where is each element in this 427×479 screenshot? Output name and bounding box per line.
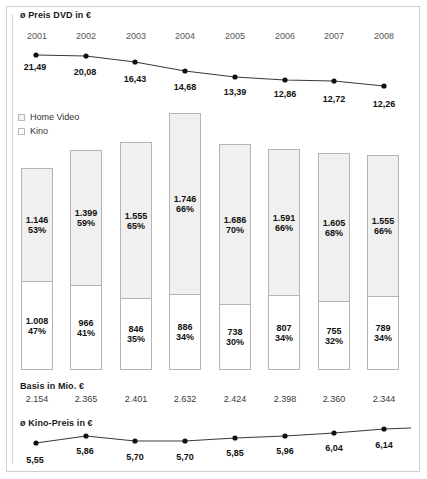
kino-price-label-2007: 6,04 — [312, 443, 356, 453]
year-label-2006: 2006 — [265, 31, 305, 41]
bar-percent-home-video-2001: 53% — [28, 225, 46, 235]
basis-value-2006: 2.398 — [263, 394, 307, 404]
dvd-price-label-2006: 12,86 — [263, 89, 307, 99]
bar-segment-home-video-2006[interactable]: 1.591 66% — [268, 149, 300, 296]
kino-price-label-2003: 5,70 — [113, 452, 157, 462]
bar-percent-home-video-2003: 65% — [127, 221, 145, 231]
bar-segment-home-video-2008[interactable]: 1.555 66% — [367, 155, 399, 297]
bar-percent-kino-2005: 30% — [226, 337, 244, 347]
bar-percent-home-video-2002: 59% — [77, 218, 95, 228]
bar-percent-kino-2008: 34% — [374, 333, 392, 343]
legend-item-kino[interactable]: Kino — [18, 126, 48, 136]
bar-segment-home-video-2003[interactable]: 1.555 65% — [120, 142, 152, 299]
bar-segment-kino-2004[interactable]: 886 34% — [169, 295, 201, 370]
dvd-price-label-2001: 21,49 — [13, 62, 57, 72]
bar-segment-home-video-2001[interactable]: 1.146 53% — [21, 168, 53, 282]
dvd-price-label-2004: 14,68 — [163, 82, 207, 92]
bar-value-kino-2002: 966 — [78, 318, 93, 328]
bar-percent-kino-2006: 34% — [275, 333, 293, 343]
bar-value-home-video-2006: 1.591 — [273, 213, 296, 223]
year-label-2008: 2008 — [364, 31, 404, 41]
bar-percent-home-video-2008: 66% — [374, 226, 392, 236]
basis-value-2002: 2.365 — [64, 394, 108, 404]
bar-segment-kino-2002[interactable]: 966 41% — [70, 286, 102, 370]
bar-value-home-video-2002: 1.399 — [75, 208, 98, 218]
bar-value-home-video-2007: 1.605 — [323, 218, 346, 228]
bar-value-kino-2004: 886 — [177, 322, 192, 332]
year-label-2004: 2004 — [165, 31, 205, 41]
basis-value-2005: 2.424 — [213, 394, 257, 404]
basis-value-2004: 2.632 — [163, 394, 207, 404]
kino-price-label-2006: 5,96 — [263, 446, 307, 456]
legend-swatch-home-video-icon — [18, 114, 25, 121]
legend-label-kino: Kino — [30, 126, 48, 136]
bar-percent-home-video-2007: 68% — [325, 228, 343, 238]
bar-value-kino-2003: 846 — [128, 324, 143, 334]
bar-segment-kino-2005[interactable]: 738 30% — [219, 305, 251, 370]
kino-price-label-2008: 6,14 — [362, 440, 406, 450]
chart-container: ø Preis DVD in € 2001 2002 2003 2004 200… — [0, 0, 427, 479]
dvd-price-label-2007: 12,72 — [312, 94, 356, 104]
bar-segment-kino-2003[interactable]: 846 35% — [120, 299, 152, 370]
bar-segment-home-video-2002[interactable]: 1.399 59% — [70, 150, 102, 286]
year-label-2007: 2007 — [314, 31, 354, 41]
bar-value-kino-2006: 807 — [276, 323, 291, 333]
bar-value-home-video-2008: 1.555 — [372, 216, 395, 226]
year-label-2001: 2001 — [17, 31, 57, 41]
bar-percent-kino-2003: 35% — [127, 334, 145, 344]
bar-percent-home-video-2006: 66% — [275, 223, 293, 233]
bar-value-kino-2008: 789 — [375, 323, 390, 333]
dvd-price-label-2002: 20,08 — [63, 67, 107, 77]
bar-segment-home-video-2005[interactable]: 1.686 70% — [219, 144, 251, 305]
kino-price-label-2004: 5,70 — [163, 452, 207, 462]
year-label-2002: 2002 — [66, 31, 106, 41]
kino-price-label-2005: 5,85 — [213, 448, 257, 458]
left-axis-rule — [12, 14, 13, 464]
bar-value-home-video-2004: 1.746 — [174, 194, 197, 204]
bar-segment-kino-2008[interactable]: 789 34% — [367, 297, 399, 370]
bar-segment-kino-2007[interactable]: 755 32% — [318, 302, 350, 370]
bar-segment-home-video-2004[interactable]: 1.746 66% — [169, 113, 201, 295]
bar-percent-kino-2007: 32% — [325, 336, 343, 346]
legend-item-home-video[interactable]: Home Video — [18, 112, 79, 122]
basis-value-2008: 2.344 — [362, 394, 406, 404]
dvd-price-label-2005: 13,39 — [213, 87, 257, 97]
bar-value-kino-2007: 755 — [326, 326, 341, 336]
bar-value-kino-2005: 738 — [227, 327, 242, 337]
bar-segment-kino-2006[interactable]: 807 34% — [268, 296, 300, 370]
kino-price-label-2002: 5,86 — [63, 446, 107, 456]
bar-percent-home-video-2004: 66% — [176, 204, 194, 214]
bar-value-home-video-2003: 1.555 — [125, 211, 148, 221]
bar-percent-kino-2001: 47% — [28, 326, 46, 336]
bar-percent-home-video-2005: 70% — [226, 225, 244, 235]
dvd-price-label-2003: 16,43 — [113, 74, 157, 84]
basis-value-2001: 2.154 — [15, 394, 59, 404]
legend-label-home-video: Home Video — [30, 112, 79, 122]
bar-value-home-video-2005: 1.686 — [224, 215, 247, 225]
bar-segment-home-video-2007[interactable]: 1.605 68% — [318, 153, 350, 302]
year-label-2003: 2003 — [116, 31, 156, 41]
bar-percent-kino-2002: 41% — [77, 328, 95, 338]
dvd-price-label-2008: 12,26 — [362, 99, 406, 109]
bar-value-kino-2001: 1.008 — [26, 316, 49, 326]
kino-price-title: ø Kino-Preis in € — [20, 418, 93, 428]
legend-swatch-kino-icon — [18, 128, 25, 135]
basis-value-2003: 2.401 — [114, 394, 158, 404]
bar-segment-kino-2001[interactable]: 1.008 47% — [21, 282, 53, 370]
dvd-price-title: ø Preis DVD in € — [20, 10, 91, 20]
year-label-2005: 2005 — [215, 31, 255, 41]
bar-value-home-video-2001: 1.146 — [26, 215, 49, 225]
basis-title: Basis in Mio. € — [20, 381, 84, 391]
bar-percent-kino-2004: 34% — [176, 332, 194, 342]
kino-price-label-2001: 5,55 — [13, 455, 57, 465]
basis-value-2007: 2.360 — [312, 394, 356, 404]
